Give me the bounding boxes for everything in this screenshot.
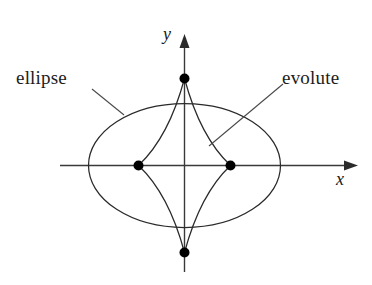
diagram-canvas	[0, 0, 372, 285]
evolute-leader-line	[209, 84, 283, 146]
x-axis	[60, 161, 358, 171]
cusp-point-right	[226, 161, 236, 171]
cusp-point-bottom	[180, 248, 190, 258]
x-axis-label: x	[336, 170, 344, 188]
math-diagram: ellipse evolute y x	[0, 0, 372, 285]
x-axis-arrowhead	[344, 161, 358, 171]
y-axis-arrowhead	[180, 34, 190, 48]
ellipse-leader-line	[92, 89, 124, 115]
cusp-point-top	[180, 74, 190, 84]
y-axis-label: y	[163, 25, 171, 43]
y-axis	[180, 34, 190, 272]
evolute-label: evolute	[282, 68, 339, 87]
cusp-point-left	[134, 161, 144, 171]
ellipse-label: ellipse	[16, 68, 67, 87]
